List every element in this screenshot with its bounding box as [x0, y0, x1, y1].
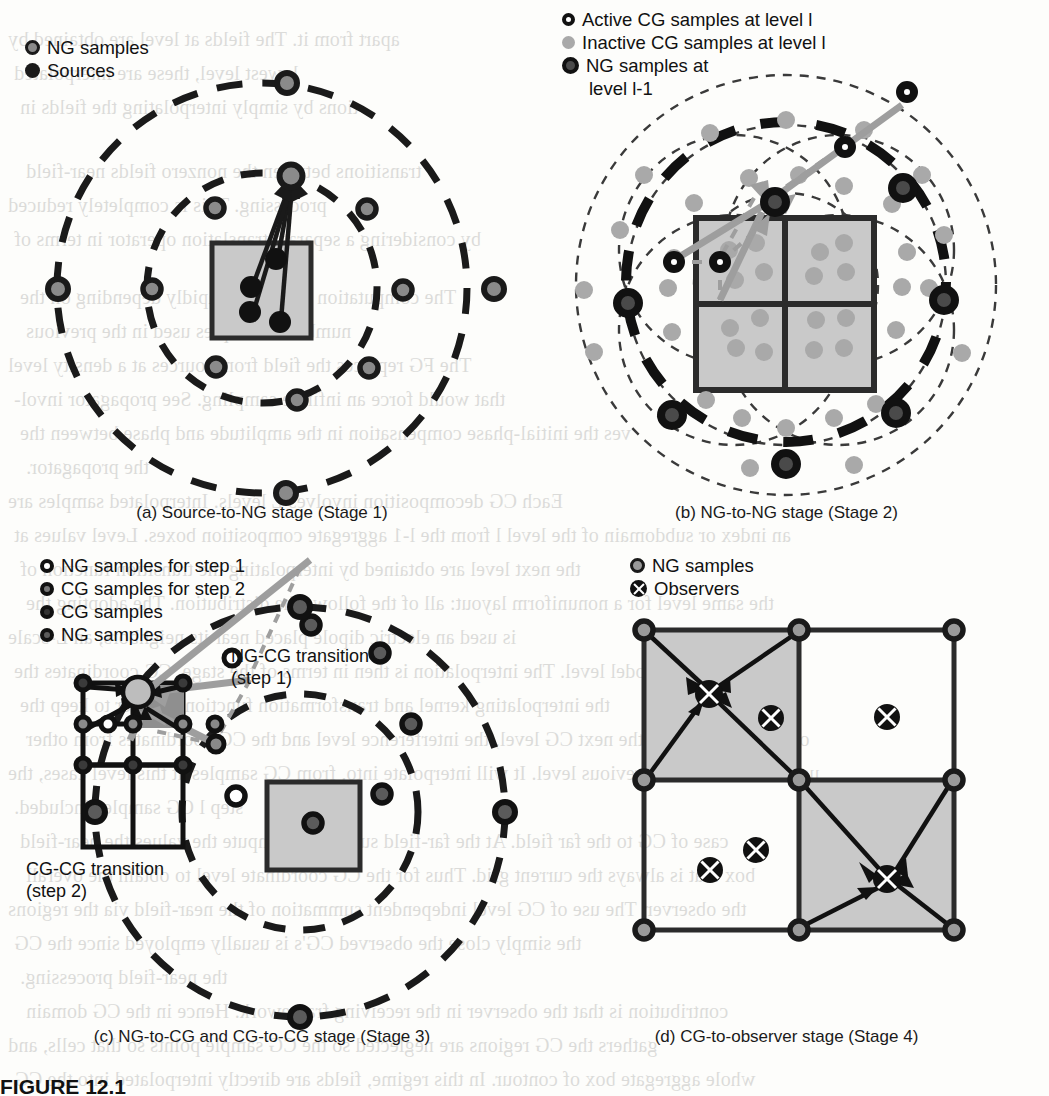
panel-b-ng-to-ng: Active CG samples at level l Inactive CG…: [524, 0, 1049, 500]
observer-marker-icon: [630, 580, 647, 597]
legend-item-sources: Sources: [25, 59, 149, 82]
panel-d-caption: (d) CG-to-observer stage (Stage 4): [524, 1027, 1049, 1047]
ng-sample-level-marker-icon: [562, 57, 579, 74]
panel-c-ng-to-cg: NG samples for step 1 CG samples for ste…: [0, 540, 524, 1040]
ng-cg-transition-label: NG-CG transition (step 1): [231, 645, 369, 689]
panel-d-figure: [524, 540, 1049, 1040]
legend-label: Inactive CG samples at level l: [582, 31, 826, 54]
panel-a-legend: NG samples Sources: [25, 36, 149, 82]
legend-item-cg-samples: CG samples: [40, 600, 245, 623]
panel-d-legend: NG samples Observers: [630, 554, 754, 600]
ng-samples-step1-marker-icon: [40, 559, 54, 573]
ng-cg-transition-line1: NG-CG transition: [231, 645, 369, 667]
legend-item-ng-level-line2: level l-1: [562, 77, 826, 100]
source-marker-icon: [25, 63, 40, 78]
legend-item-cg-step2: CG samples for step 2: [40, 577, 245, 600]
legend-label: NG samples: [652, 554, 754, 577]
legend-item-active-cg: Active CG samples at level l: [562, 8, 826, 31]
ng-samples-marker-icon: [40, 628, 54, 642]
legend-label: NG samples: [47, 36, 149, 59]
panel-a-source-to-ng: NG samples Sources (a) Source-to-NG stag…: [0, 0, 524, 500]
cg-cg-transition-line2: (step 2): [26, 880, 164, 902]
legend-label: CG samples: [61, 600, 163, 623]
cg-cg-transition-label: CG-CG transition (step 2): [26, 858, 164, 902]
inactive-cg-sample-marker-icon: [562, 36, 575, 49]
figure-number-label: FIGURE 12.1: [0, 1075, 126, 1096]
panel-b-caption: (b) NG-to-NG stage (Stage 2): [524, 503, 1049, 523]
ng-sample-marker-icon: [25, 40, 40, 55]
legend-label: Observers: [654, 577, 739, 600]
legend-item-observers: Observers: [630, 577, 754, 600]
cg-cg-transition-line1: CG-CG transition: [26, 858, 164, 880]
legend-item-ng-samples: NG samples: [40, 623, 245, 646]
center-cg-node-c: [123, 677, 153, 707]
legend-label: CG samples for step 2: [61, 577, 245, 600]
ng-cg-transition-line2: (step 1): [231, 667, 369, 689]
panel-b-legend: Active CG samples at level l Inactive CG…: [562, 8, 826, 100]
ng-sample-marker-icon: [630, 558, 645, 573]
legend-item-ng-samples: NG samples: [630, 554, 754, 577]
cg-samples-step2-marker-icon: [40, 582, 54, 596]
legend-item-ng-level: NG samples at: [562, 54, 826, 77]
legend-item-inactive-cg: Inactive CG samples at level l: [562, 31, 826, 54]
cg-samples-marker-icon: [40, 605, 54, 619]
panel-d-cg-to-observer: NG samples Observers (d) CG-to-observer …: [524, 540, 1049, 1040]
legend-label: Active CG samples at level l: [582, 8, 812, 31]
panel-c-caption: (c) NG-to-CG and CG-to-CG stage (Stage 3…: [0, 1027, 524, 1047]
panel-c-legend: NG samples for step 1 CG samples for ste…: [40, 554, 245, 646]
legend-item-ng-step1: NG samples for step 1: [40, 554, 245, 577]
legend-label: NG samples at: [586, 54, 708, 77]
legend-label-line2: level l-1: [589, 77, 653, 100]
legend-label: NG samples: [61, 623, 163, 646]
legend-label: Sources: [47, 59, 115, 82]
legend-label: NG samples for step 1: [61, 554, 245, 577]
panel-a-caption: (a) Source-to-NG stage (Stage 1): [0, 503, 524, 523]
active-cg-sample-marker-icon: [562, 13, 575, 26]
legend-item-ng-samples: NG samples: [25, 36, 149, 59]
